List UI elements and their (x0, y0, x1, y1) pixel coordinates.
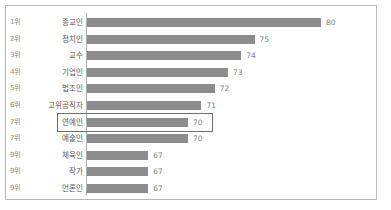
chart-row: 4위기업인73 (6, 64, 378, 81)
bar (87, 18, 321, 27)
category-label: 종교인 (38, 14, 83, 31)
bar-value-label: 72 (220, 80, 230, 97)
bar-value-label: 70 (193, 130, 203, 147)
category-label: 기업인 (38, 64, 83, 81)
chart-row: 7위예술인70 (6, 130, 378, 147)
bar (87, 134, 188, 143)
category-label: 작가 (38, 163, 83, 180)
bar (87, 167, 148, 176)
rank-label: 6위 (10, 97, 38, 114)
bar (87, 51, 241, 60)
category-label: 법조인 (38, 80, 83, 97)
category-label: 고위공직자 (38, 97, 83, 114)
rank-label: 9위 (10, 163, 38, 180)
chart-frame: 1위종교인802위정치인753위교수744위기업인735위법조인726위고위공직… (5, 5, 377, 200)
bar (87, 68, 228, 77)
chart-row: 9위언론인67 (6, 180, 378, 197)
bar-value-label: 75 (260, 31, 270, 48)
rank-label: 9위 (10, 180, 38, 197)
chart-row: 6위고위공직자71 (6, 97, 378, 114)
rank-label: 1위 (10, 14, 38, 31)
bar-value-label: 67 (153, 147, 163, 164)
category-label: 언론인 (38, 180, 83, 197)
bar (87, 184, 148, 193)
rank-label: 7위 (10, 130, 38, 147)
bar-value-label: 71 (206, 97, 216, 114)
rank-label: 7위 (10, 114, 38, 131)
rank-label: 9위 (10, 147, 38, 164)
rank-label: 2위 (10, 31, 38, 48)
highlight-box-yeonyein (57, 113, 213, 132)
chart-row: 3위교수74 (6, 47, 378, 64)
category-label: 교수 (38, 47, 83, 64)
chart-row: 9위체육인67 (6, 147, 378, 164)
bar-value-label: 74 (246, 47, 256, 64)
chart-plot-area: 1위종교인802위정치인753위교수744위기업인735위법조인726위고위공직… (6, 6, 378, 201)
bar (87, 151, 148, 160)
category-label: 체육인 (38, 147, 83, 164)
bar-value-label: 67 (153, 163, 163, 180)
chart-row: 5위법조인72 (6, 80, 378, 97)
bar (87, 84, 215, 93)
bar-value-label: 73 (233, 64, 243, 81)
rank-label: 5위 (10, 80, 38, 97)
bar (87, 101, 201, 110)
chart-row: 1위종교인80 (6, 14, 378, 31)
rank-label: 4위 (10, 64, 38, 81)
category-label: 정치인 (38, 31, 83, 48)
rank-label: 3위 (10, 47, 38, 64)
chart-row: 2위정치인75 (6, 31, 378, 48)
category-label: 예술인 (38, 130, 83, 147)
bar-value-label: 67 (153, 180, 163, 197)
bar (87, 35, 255, 44)
chart-row: 9위작가67 (6, 163, 378, 180)
bar-value-label: 80 (326, 14, 336, 31)
